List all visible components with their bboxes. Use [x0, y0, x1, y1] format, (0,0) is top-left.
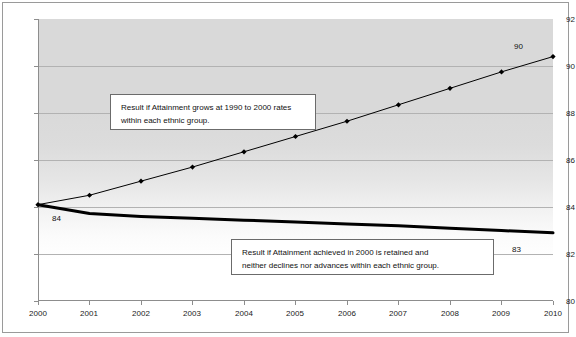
annotation-retained-line1: Result if Attainment achieved in 2000 is… [242, 246, 484, 259]
x-tick [244, 301, 245, 305]
x-tick [450, 301, 451, 305]
gridline-86 [39, 160, 553, 161]
y-tick [34, 160, 38, 161]
x-axis-label: 2007 [375, 309, 421, 319]
y-tick [34, 66, 38, 67]
data-label-end-lower: 83 [512, 245, 521, 254]
y-tick [34, 113, 38, 114]
x-axis-label: 2008 [427, 309, 473, 319]
annotation-growth-line1: Result if Attainment grows at 1990 to 20… [121, 101, 306, 114]
data-label-start: 84 [52, 214, 61, 223]
gridline-84 [39, 207, 553, 208]
x-tick [295, 301, 296, 305]
y-tick [34, 207, 38, 208]
x-axis-label: 2006 [324, 309, 370, 319]
x-tick [192, 301, 193, 305]
x-tick [501, 301, 502, 305]
y-tick [34, 19, 38, 20]
x-tick [347, 301, 348, 305]
x-tick [553, 301, 554, 305]
x-axis-label: 2001 [66, 309, 112, 319]
annotation-retained-line2: neither declines nor advances within eac… [242, 259, 484, 272]
x-tick [141, 301, 142, 305]
x-axis-label: 2009 [478, 309, 524, 319]
y-tick [34, 254, 38, 255]
annotation-growth-line2: within each ethnic group. [121, 114, 306, 127]
gridline-90 [39, 66, 553, 67]
annotation-retained: Result if Attainment achieved in 2000 is… [231, 239, 494, 275]
x-tick [89, 301, 90, 305]
x-axis-label: 2010 [530, 309, 576, 319]
x-axis-label: 2002 [118, 309, 164, 319]
x-tick [38, 301, 39, 305]
x-axis-label: 2005 [272, 309, 318, 319]
data-label-end-upper: 90 [514, 42, 523, 51]
x-axis-label: 2003 [169, 309, 215, 319]
x-axis-label: 2004 [221, 309, 267, 319]
x-tick [398, 301, 399, 305]
x-axis-label: 2000 [15, 309, 61, 319]
annotation-growth: Result if Attainment grows at 1990 to 20… [110, 94, 316, 130]
